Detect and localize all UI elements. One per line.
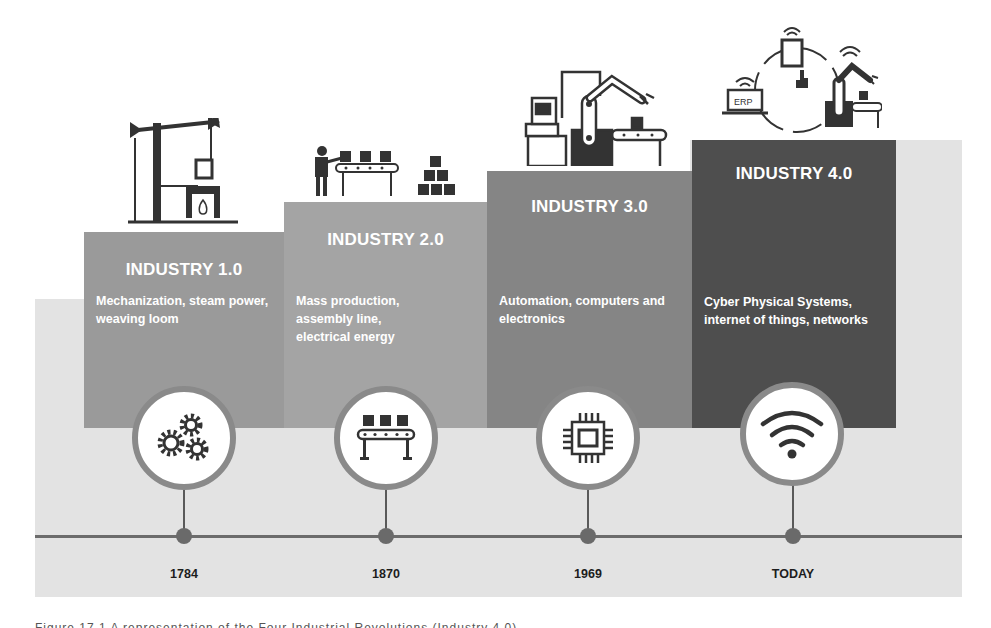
assembly-line-worker-icon [310, 146, 475, 198]
connected-erp-robot-icon: ERP [722, 18, 882, 138]
stage-description: Mechanization, steam power, weaving loom [96, 292, 278, 328]
year-label: 1784 [144, 567, 224, 581]
stage-title: INDUSTRY 1.0 [84, 260, 284, 280]
svg-text:ERP: ERP [734, 97, 753, 107]
steam-engine-icon [128, 118, 238, 228]
timeline-marker-1969 [580, 528, 596, 544]
stem-today [792, 480, 794, 532]
conveyor-belt-icon [355, 413, 417, 463]
circle-industry-3 [536, 386, 640, 490]
figure-caption-partial: Figure 17.1 A representation of the Four… [35, 620, 965, 628]
circle-industry-4 [740, 382, 844, 486]
year-label: TODAY [753, 567, 833, 581]
stage-description: Mass production, assembly line, electric… [296, 292, 427, 346]
circle-industry-1 [132, 386, 236, 490]
timeline-axis [35, 535, 962, 538]
year-label: 1870 [346, 567, 426, 581]
stage-title: INDUSTRY 2.0 [284, 230, 487, 250]
stage-title: INDUSTRY 4.0 [692, 164, 896, 184]
stage-description: Automation, computers and electronics [499, 292, 682, 328]
wifi-icon [759, 408, 825, 460]
timeline-marker-1870 [378, 528, 394, 544]
robotic-arm-computer-icon [520, 68, 670, 166]
timeline-marker-1784 [176, 528, 192, 544]
circle-industry-2 [334, 386, 438, 490]
stage-title: INDUSTRY 3.0 [487, 197, 692, 217]
timeline-marker-today [785, 528, 801, 544]
year-label: 1969 [548, 567, 628, 581]
microchip-icon [560, 410, 616, 466]
stage-description: Cyber Physical Systems, internet of thin… [704, 293, 892, 329]
gears-icon [153, 409, 215, 467]
